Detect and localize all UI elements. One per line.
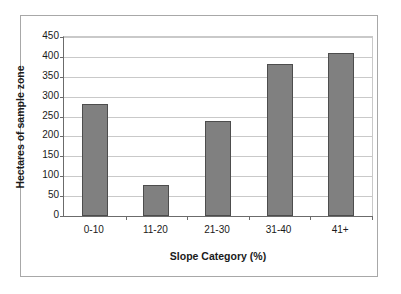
x-axis-title: Slope Category (%)	[63, 250, 373, 263]
x-axis-tick	[126, 216, 127, 220]
x-axis-tick-label: 21-30	[186, 224, 248, 236]
y-axis-tick	[60, 37, 64, 38]
bar	[143, 185, 169, 216]
x-axis-tick	[249, 216, 250, 220]
x-axis-tick-labels: 0-1011-2021-3031-4041+	[63, 224, 373, 238]
bar	[328, 53, 354, 216]
y-axis-tick	[60, 216, 64, 217]
x-axis-tick-label: 41+	[309, 224, 371, 236]
y-axis-tick-label: 100	[25, 170, 59, 180]
x-axis-tick-label: 0-10	[63, 224, 125, 236]
y-axis-tick	[60, 57, 64, 58]
y-axis-tick-labels: 050100150200250300350400450	[23, 36, 59, 217]
y-axis-tick	[60, 176, 64, 177]
y-axis-tick-label: 450	[25, 31, 59, 41]
gridline	[64, 117, 372, 118]
y-axis-tick-label: 200	[25, 130, 59, 140]
bar	[205, 121, 231, 216]
gridline	[64, 97, 372, 98]
y-axis-tick-label: 250	[25, 111, 59, 121]
x-axis-tick-label: 31-40	[248, 224, 310, 236]
y-axis-tick	[60, 77, 64, 78]
x-axis-tick	[372, 216, 373, 220]
gridline	[64, 37, 372, 38]
y-axis-tick	[60, 196, 64, 197]
chart-figure: Hectares of sample zone 0501001502002503…	[0, 0, 401, 294]
y-axis-tick	[60, 136, 64, 137]
x-axis-tick-label: 11-20	[125, 224, 187, 236]
plot-area	[63, 36, 373, 217]
y-axis-tick-label: 150	[25, 150, 59, 160]
bar	[82, 104, 108, 216]
y-axis-tick	[60, 117, 64, 118]
y-axis-tick-label: 400	[25, 51, 59, 61]
bar	[267, 64, 293, 216]
gridline	[64, 77, 372, 78]
x-axis-tick	[187, 216, 188, 220]
y-axis-tick-label: 0	[25, 210, 59, 220]
y-axis-tick-label: 300	[25, 91, 59, 101]
gridline	[64, 57, 372, 58]
y-axis-tick-label: 350	[25, 71, 59, 81]
y-axis-tick	[60, 156, 64, 157]
y-axis-tick	[60, 97, 64, 98]
x-axis-tick	[310, 216, 311, 220]
y-axis-tick-label: 50	[25, 190, 59, 200]
